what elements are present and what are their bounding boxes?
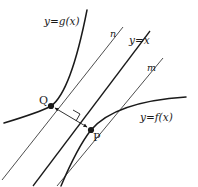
tangent-line-n <box>2 27 123 180</box>
label-curve-g: y=g(x) <box>44 16 80 27</box>
math-figure: y=g(x) n y=x m y=f(x) Q P <box>0 0 198 187</box>
segment-qp-arrow <box>55 108 87 127</box>
label-line-m: m <box>147 63 156 73</box>
label-identity-line: y=x <box>129 35 150 46</box>
point-q-dot <box>48 103 54 109</box>
label-point-p: P <box>93 132 100 143</box>
label-curve-f: y=f(x) <box>140 112 173 123</box>
figure-canvas <box>0 0 198 187</box>
label-line-n: n <box>110 29 116 39</box>
label-point-q: Q <box>39 95 48 106</box>
